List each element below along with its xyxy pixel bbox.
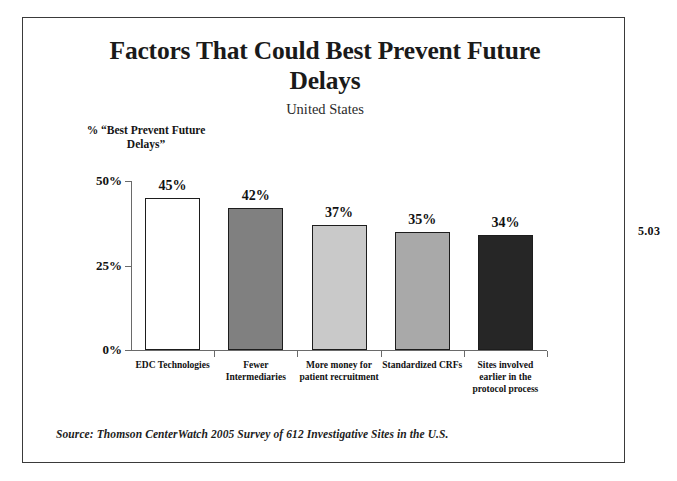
bar[interactable] [228,208,283,350]
bar-value-label: 35% [408,212,436,228]
y-tick-mark [125,350,131,351]
y-tick-label: 25% [96,258,122,274]
y-axis-line [131,181,132,351]
x-tick-mark [547,351,548,357]
chart-subtitle: United States [83,101,567,118]
x-tick-mark [464,351,465,357]
x-tick-mark [297,351,298,357]
chart-title: Factors That Could Best Prevent Future D… [83,36,567,96]
y-tick-mark [125,266,131,267]
x-axis-line [131,350,547,351]
bar-value-label: 34% [491,215,519,231]
x-tick-mark [214,351,215,357]
bar-value-label: 37% [325,205,353,221]
y-tick-mark [125,181,131,182]
bar-group[interactable]: 34%Sites involvedearlier in theprotocol … [478,181,533,350]
x-tick-mark [381,351,382,357]
bar[interactable] [312,225,367,350]
y-tick-label: 0% [103,342,123,358]
bar-group[interactable]: 45%EDC Technologies [145,181,200,350]
slide-frame: Factors That Could Best Prevent Future D… [22,17,625,463]
bar[interactable] [145,198,200,350]
bar-value-label: 45% [159,178,187,194]
plot-area: 0%25%50% 45%EDC Technologies42%FewerInte… [131,181,547,351]
bar[interactable] [395,232,450,350]
bar[interactable] [478,235,533,350]
page-number: 5.03 [638,224,660,239]
x-axis-category-label: Sites involvedearlier in theprotocol pro… [449,359,561,395]
bar-group[interactable]: 37%More money forpatient recruitment [312,181,367,350]
source-note: Source: Thomson CenterWatch 2005 Survey … [56,428,449,440]
bar-value-label: 42% [242,188,270,204]
bar-group[interactable]: 42%FewerIntermediaries [228,181,283,350]
y-tick-label: 50% [96,173,122,189]
bar-group[interactable]: 35%Standardized CRFs [395,181,450,350]
y-axis-label: % “Best Prevent Future Delays” [81,123,211,151]
